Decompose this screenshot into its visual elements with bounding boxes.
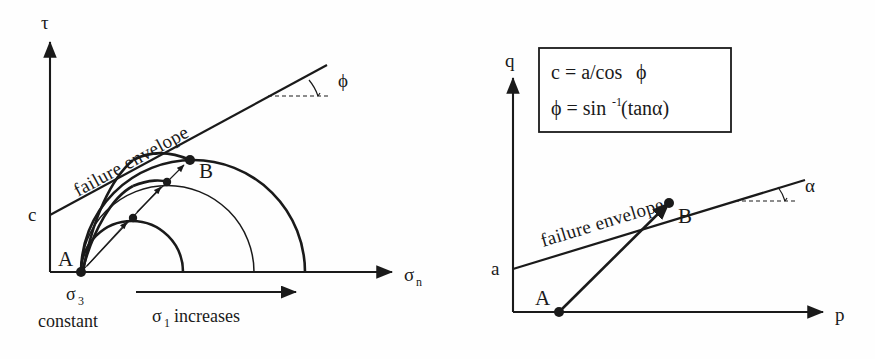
stress-path-diagram: q p a α A B failure envelope c = a/cos bbox=[435, 0, 875, 359]
mohr-circle-diagram: τ σ n c ϕ bbox=[0, 0, 440, 359]
svg-text:increases: increases bbox=[174, 306, 240, 326]
tau-axis-label: τ bbox=[41, 12, 49, 33]
point-b-marker bbox=[664, 198, 674, 208]
sigma3-constant-annotation: σ 3 constant bbox=[38, 284, 98, 331]
formula-box: c = a/cos ϕ ϕ = sin -1 (tanα) bbox=[539, 48, 731, 132]
cohesion-intercept-label: c bbox=[28, 204, 36, 225]
point-a-label: A bbox=[58, 247, 74, 271]
svg-text:σ: σ bbox=[66, 284, 76, 304]
phi-angle-label: ϕ bbox=[338, 70, 348, 91]
alpha-angle-label: α bbox=[805, 175, 815, 196]
phi-angle-arc bbox=[309, 80, 318, 96]
svg-text:ϕ = sin: ϕ = sin bbox=[551, 97, 606, 120]
svg-text:1: 1 bbox=[164, 316, 170, 330]
point-a-marker bbox=[76, 267, 86, 277]
p-axis-label: p bbox=[835, 304, 845, 325]
tangent-point-2 bbox=[163, 178, 171, 186]
svg-text:constant: constant bbox=[38, 311, 98, 331]
svg-text:σ: σ bbox=[152, 306, 162, 326]
point-b-label: B bbox=[199, 159, 213, 183]
intercept-a-label: a bbox=[491, 258, 500, 279]
sigma1-increases-annotation: σ 1 increases bbox=[136, 292, 296, 330]
point-a-label: A bbox=[535, 286, 551, 310]
sigma-n-axis-label: σ n bbox=[404, 264, 422, 289]
point-b-label: B bbox=[678, 204, 692, 228]
q-axis-label: q bbox=[505, 50, 515, 71]
svg-text:n: n bbox=[416, 275, 422, 289]
svg-text:3: 3 bbox=[78, 294, 84, 308]
tangent-point-1 bbox=[129, 214, 137, 222]
svg-text:σ: σ bbox=[404, 264, 414, 285]
svg-text:ϕ: ϕ bbox=[636, 61, 647, 84]
point-a-marker bbox=[554, 307, 564, 317]
svg-text:(tanα): (tanα) bbox=[621, 97, 669, 120]
alpha-angle-arc bbox=[778, 187, 785, 201]
svg-text:c = a/cos: c = a/cos bbox=[551, 61, 622, 83]
point-b-marker bbox=[185, 155, 195, 165]
figure-root: τ σ n c ϕ bbox=[0, 0, 875, 359]
